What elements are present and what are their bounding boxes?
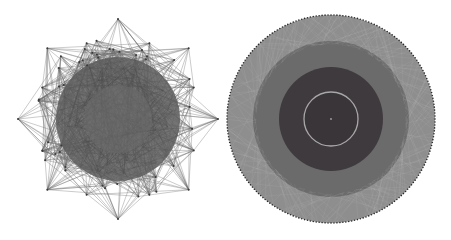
network-graph-concentric-layout (0, 0, 451, 240)
figure (0, 0, 451, 240)
